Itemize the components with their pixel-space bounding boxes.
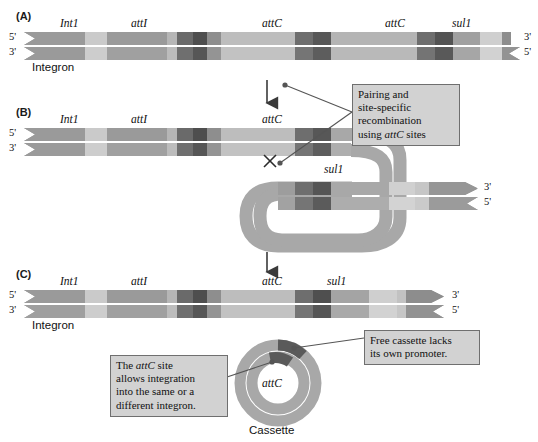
callout-integration-line-1: The attC site <box>116 359 222 372</box>
callout-promoter: Free cassette lacks its own promoter. <box>364 330 480 365</box>
gene-label-a-atti: attI <box>131 17 147 29</box>
panel-a-top-left-end: 5' <box>9 31 16 42</box>
diagram-graphics <box>0 0 538 442</box>
panel-b-right-end-3: 3' <box>484 181 491 192</box>
panel-b-bottom-left-end: 3' <box>9 142 16 153</box>
gene-label-a-attc-2: attC <box>385 17 405 29</box>
callout-pairing-line-4: using attC sites <box>358 128 454 141</box>
gene-label-c-atti: attI <box>131 275 147 287</box>
gene-label-b-sul1: sul1 <box>324 163 343 175</box>
callout-pairing: Pairing and site-specific recombination … <box>352 84 460 146</box>
panel-b-top-left-end: 5' <box>9 127 16 138</box>
callout-promoter-line-1: Free cassette lacks <box>370 334 474 347</box>
gene-label-b-int1: Int1 <box>60 113 79 125</box>
gene-label-c-sul1: sul1 <box>327 275 346 287</box>
panel-c-top-right-end: 3' <box>452 289 459 300</box>
panel-a-duplex <box>24 32 520 60</box>
panel-c-duplex <box>24 290 444 318</box>
callout-pairing-line-3: recombination <box>358 114 454 127</box>
gene-label-b-attc: attC <box>262 113 282 125</box>
callout-integration: The attC site allows integration into th… <box>110 355 228 417</box>
callout-pairing-line-1: Pairing and <box>358 88 454 101</box>
callout-integration-line-4: different integron. <box>116 399 222 412</box>
panel-b-right-end-5: 5' <box>484 196 491 207</box>
gene-label-a-int1: Int1 <box>60 17 79 29</box>
gene-label-c-int1: Int1 <box>60 275 79 287</box>
cassette-attc-label: attC <box>262 377 282 389</box>
panel-c-top-left-end: 5' <box>9 289 16 300</box>
gene-label-a-attc-1: attC <box>262 17 282 29</box>
panel-label-b: (B) <box>16 106 31 118</box>
gene-label-b-atti: attI <box>131 113 147 125</box>
panel-c-caption-integron: Integron <box>32 319 74 331</box>
panel-c-bottom-right-end: 5' <box>452 304 459 315</box>
gene-label-c-attc: attC <box>262 275 282 287</box>
figure-canvas: (A) Int1 attI attC attC sul1 5' 3' 3' 5'… <box>0 0 538 442</box>
cassette-caption: Cassette <box>249 424 294 436</box>
panel-b-duplex-straight <box>24 128 357 156</box>
panel-a-bottom-right-end: 5' <box>524 46 531 57</box>
panel-c-bottom-left-end: 3' <box>9 304 16 315</box>
callout-pairing-line-2: site-specific <box>358 101 454 114</box>
callout-integration-line-2: allows integration <box>116 372 222 385</box>
gene-label-a-sul1: sul1 <box>452 17 471 29</box>
panel-label-a: (A) <box>16 10 31 22</box>
panel-a-caption-integron: Integron <box>32 61 74 73</box>
callout-integration-italic-term: attC <box>136 359 155 371</box>
callout-leader-lines <box>218 82 364 380</box>
panel-a-top-right-end: 3' <box>524 31 531 42</box>
panel-a-bottom-left-end: 3' <box>9 46 16 57</box>
panel-label-c: (C) <box>16 268 31 280</box>
callout-promoter-line-2: its own promoter. <box>370 347 474 360</box>
crossover-x-mark <box>264 155 276 167</box>
callout-pairing-italic-term: attC <box>385 128 404 140</box>
callout-integration-line-3: into the same or a <box>116 385 222 398</box>
